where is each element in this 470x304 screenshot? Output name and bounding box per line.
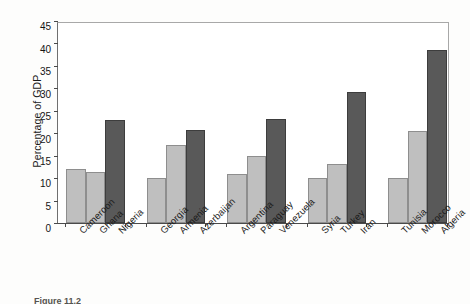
y-tick-label: 5 xyxy=(45,202,58,212)
y-tick-mark xyxy=(54,21,58,22)
y-tick-mark xyxy=(54,178,58,179)
y-tick-label: 20 xyxy=(40,135,58,145)
y-tick-label: 40 xyxy=(40,45,58,55)
bar-algeria xyxy=(427,50,447,223)
group-separator xyxy=(146,223,147,227)
group-separator xyxy=(307,223,308,227)
bar-iran xyxy=(347,92,367,223)
y-tick-mark xyxy=(54,43,58,44)
bar-georgia xyxy=(147,178,167,223)
group-separator xyxy=(387,223,388,227)
figure-container: Percentage of GDP 051015202530354045 Cam… xyxy=(0,0,470,304)
group-separator xyxy=(65,223,66,227)
bar-tunisia xyxy=(388,178,408,223)
bar-cameroon xyxy=(66,169,86,223)
group-separator xyxy=(226,223,227,227)
y-tick-mark xyxy=(54,111,58,112)
plot-area: 051015202530354045 xyxy=(57,22,449,224)
y-tick-label: 30 xyxy=(40,90,58,100)
y-tick-mark xyxy=(54,156,58,157)
y-tick-label: 35 xyxy=(40,67,58,77)
y-tick-label: 15 xyxy=(40,157,58,167)
y-tick-label: 45 xyxy=(40,22,58,32)
y-tick-mark xyxy=(54,66,58,67)
y-tick-label: 0 xyxy=(45,224,58,234)
y-tick-mark xyxy=(54,201,58,202)
figure-caption: Figure 11.2 xyxy=(34,296,81,304)
y-tick-mark xyxy=(54,133,58,134)
y-tick-label: 10 xyxy=(40,179,58,189)
y-tick-mark xyxy=(54,223,58,224)
y-tick-mark xyxy=(54,88,58,89)
y-tick-label: 25 xyxy=(40,112,58,122)
